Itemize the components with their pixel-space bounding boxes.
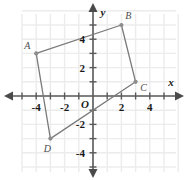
y-axis-arrow-bottom-icon: [89, 169, 98, 178]
vertex-label-a: A: [23, 40, 31, 51]
vertex-label-c: C: [140, 82, 147, 93]
y-axis-arrow-top-icon: [89, 3, 98, 12]
origin-label: O: [81, 98, 89, 110]
vertex-point-d: [48, 137, 52, 141]
x-tick-label: -4: [32, 101, 42, 113]
y-axis-title: y: [99, 6, 106, 18]
coordinate-plane-figure: -4-22442-2-4 ABCD x y O: [0, 0, 189, 180]
x-tick-label: -2: [60, 101, 70, 113]
y-tick-label: -2: [76, 118, 86, 130]
vertex-point-c: [134, 80, 138, 84]
x-tick-label: 2: [119, 101, 125, 113]
vertex-point-b: [119, 23, 123, 27]
vertex-label-d: D: [43, 143, 52, 154]
coordinate-plane-svg: -4-22442-2-4 ABCD x y O: [0, 0, 189, 180]
y-tick-label: -4: [76, 147, 86, 159]
y-tick-label: 2: [80, 62, 86, 74]
x-axis-title: x: [167, 76, 174, 88]
x-axis-arrow-right-icon: [175, 92, 184, 101]
y-tick-label: 4: [80, 33, 86, 45]
axes: [4, 3, 184, 178]
x-axis-arrow-left-icon: [4, 92, 13, 101]
vertex-point-a: [34, 51, 38, 55]
x-tick-label: 4: [147, 101, 153, 113]
vertex-label-b: B: [125, 10, 131, 21]
